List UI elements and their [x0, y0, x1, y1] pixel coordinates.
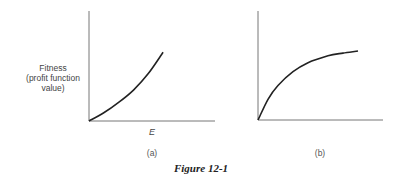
panel-a-ylabel-line-1: Fitness: [39, 63, 66, 73]
panel-a-ylabel-line-3: value): [41, 83, 64, 93]
panel-a: Fitness (profit function value) E (a): [26, 11, 215, 158]
figure-caption: Figure 12-1: [173, 162, 228, 174]
panel-a-curve: [89, 52, 163, 121]
panel-a-label: (a): [147, 148, 158, 158]
panel-a-ylabel-line-2: (profit function: [26, 73, 80, 83]
panel-b-label: (b): [315, 148, 326, 158]
panel-a-xlabel: E: [149, 127, 156, 137]
panel-b-curve: [258, 51, 358, 120]
figure: Fitness (profit function value) E (a) (b…: [0, 0, 399, 178]
panel-b: (b): [258, 11, 383, 158]
